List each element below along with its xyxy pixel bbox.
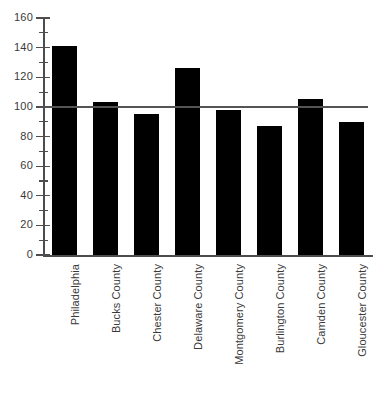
y-axis-tick-label: 100 (14, 101, 33, 112)
y-axis-major-tick (36, 225, 50, 226)
y-axis-minor-tick (39, 32, 48, 33)
y-axis-tick-label: 40 (20, 190, 33, 201)
y-axis-major-tick (36, 77, 50, 78)
y-axis-major-tick (36, 136, 50, 137)
bar (175, 68, 200, 255)
y-axis-minor-tick (39, 92, 48, 93)
y-axis-tick-label: 120 (14, 71, 33, 82)
y-axis-major-tick (36, 17, 50, 18)
y-axis-minor-tick (39, 121, 48, 122)
x-axis-tick-label: Chester County (152, 264, 163, 342)
y-axis-minor-tick (39, 151, 48, 152)
x-axis-tick-label: Burlington County (275, 264, 286, 353)
x-axis-tick-label: Bucks County (111, 264, 122, 333)
y-axis-minor-tick (39, 62, 48, 63)
bar-chart: 020406080100120140160 PhiladelphiaBucks … (0, 0, 374, 395)
y-axis-tick-label: 160 (14, 12, 33, 23)
x-axis-tick-label: Montgomery County (234, 264, 245, 365)
plot-area: 020406080100120140160 PhiladelphiaBucks … (0, 0, 374, 395)
y-axis-tick-label: 80 (20, 131, 33, 142)
y-axis-minor-tick (39, 180, 48, 181)
y-axis-minor-tick (39, 210, 48, 211)
bar (93, 102, 118, 255)
bar (339, 122, 364, 255)
bar (298, 99, 323, 255)
y-axis-tick-label: 60 (20, 160, 33, 171)
y-axis-major-tick (36, 47, 50, 48)
y-axis-tick-label: 20 (20, 219, 33, 230)
y-axis-minor-tick (39, 240, 48, 241)
bar (134, 114, 159, 255)
x-axis-tick-label: Philadelphia (70, 264, 81, 325)
y-axis-major-tick (36, 195, 50, 196)
y-axis-major-tick (36, 166, 50, 167)
bar (52, 46, 77, 255)
x-axis-tick-label: Delaware County (193, 264, 204, 350)
x-axis-line (43, 255, 373, 257)
x-axis-tick-label: Gloucester County (357, 264, 368, 357)
y-axis-tick-label: 0 (27, 249, 33, 260)
x-axis-tick-label: Camden County (316, 264, 327, 345)
y-axis-major-tick (36, 254, 50, 255)
y-axis-tick-label: 140 (14, 42, 33, 53)
reference-line-100 (43, 106, 368, 107)
bar (257, 126, 282, 255)
bar (216, 110, 241, 255)
